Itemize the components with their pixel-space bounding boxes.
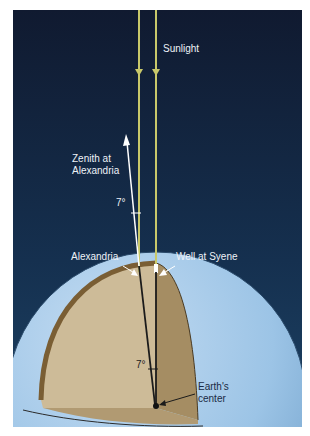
angle-label-center: 7° xyxy=(136,359,146,371)
earth-center-dot xyxy=(153,403,159,409)
well-at-syene-label: Well at Syene xyxy=(176,251,238,263)
angle-label-top: 7° xyxy=(116,197,126,209)
diagram-frame: Sunlight Zenith at Alexandria 7° Alexand… xyxy=(13,10,302,427)
zenith-label-line2: Alexandria xyxy=(72,165,119,177)
zenith-label-line1: Zenith at xyxy=(72,153,111,165)
well-marker xyxy=(154,264,158,273)
diagram-canvas xyxy=(13,10,302,427)
earth-center-label-line1: Earth's xyxy=(198,381,229,393)
alexandria-label: Alexandria xyxy=(71,251,118,263)
sunlight-label: Sunlight xyxy=(163,43,199,55)
earth-center-label-line2: center xyxy=(198,393,226,405)
